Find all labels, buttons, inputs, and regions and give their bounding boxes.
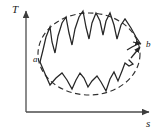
- state-label-a: a: [33, 55, 38, 64]
- irreversible-cycle-lower-branch: [40, 60, 133, 91]
- x-axis-label: s: [146, 118, 150, 129]
- arrow-into-b-lower-icon: [131, 47, 140, 58]
- irreversible-cycle-upper-branch: [40, 11, 140, 62]
- state-label-b: b: [146, 40, 151, 49]
- diagram-canvas: [0, 0, 162, 133]
- reversible-cycle-dashed-curve: [38, 13, 140, 95]
- y-axis-label: T: [12, 4, 18, 15]
- ts-diagram-figure: T s a b: [0, 0, 162, 133]
